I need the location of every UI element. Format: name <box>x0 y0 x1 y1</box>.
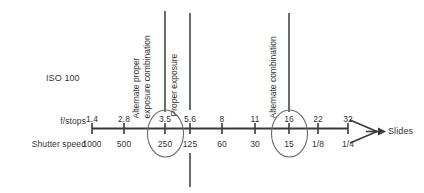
fstop-value: 2.8 <box>118 115 130 124</box>
shutter-value: 15 <box>284 140 294 149</box>
fstop-value: 16 <box>284 115 294 124</box>
shutter-value: 1/4 <box>342 140 354 149</box>
fstop-value: 1.4 <box>86 115 98 124</box>
annotation-alternate-proper-line1: Alternate proper <box>132 58 141 119</box>
annotation-proper-exposure: Proper exposure <box>170 54 179 117</box>
shutter-value: 250 <box>158 140 172 149</box>
fstop-value: 22 <box>313 115 323 124</box>
annotation-alternate-proper-line2: exposure combination <box>143 35 152 118</box>
row-label-fstops: f/stops <box>0 117 86 126</box>
shutter-value: 500 <box>117 140 131 149</box>
exposure-scale-figure: ISO 100 f/stops Shutter speed 1.4 2.8 3.… <box>0 0 424 193</box>
shutter-value: 1/8 <box>312 140 324 149</box>
shutter-value: 1000 <box>82 140 101 149</box>
fstop-value: 32 <box>343 115 353 124</box>
fstop-value: 11 <box>250 115 259 124</box>
shutter-value: 125 <box>183 140 197 149</box>
slides-label: Slides <box>388 127 413 136</box>
slides-arrow-icon <box>350 120 386 143</box>
annotation-alternate-combination: Alternate combination <box>269 36 278 118</box>
fstop-value: 5.6 <box>184 115 196 124</box>
diagram-canvas <box>0 0 424 193</box>
shutter-value: 30 <box>250 140 260 149</box>
iso-label: ISO 100 <box>46 74 80 83</box>
fstop-value: 8 <box>220 115 225 124</box>
row-label-shutter-speed: Shutter speed <box>0 140 86 149</box>
shutter-value: 60 <box>217 140 227 149</box>
